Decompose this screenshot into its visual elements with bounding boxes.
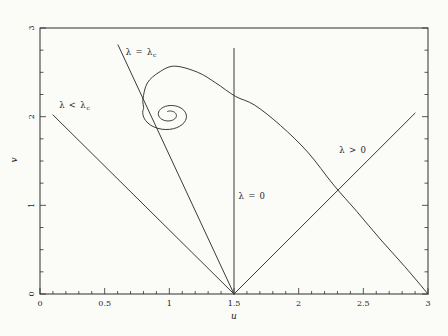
x-tick-label: 3	[425, 299, 430, 308]
lambda-critical-line	[118, 45, 234, 294]
x-tick-label: 2.5	[357, 299, 370, 308]
lambda-lt-critical-line	[53, 115, 234, 294]
lambda-gt-zero-line	[234, 113, 415, 294]
x-tick-label: 0	[37, 299, 42, 308]
y-tick-label: 2	[27, 114, 36, 119]
curve-label-lambda-critical-line: λ = λc	[126, 47, 157, 58]
spiral-trajectory	[143, 66, 428, 294]
x-tick-label: 1	[167, 299, 172, 308]
x-axis-label: u	[231, 312, 237, 321]
curve-label-lambda-gt-zero-line: λ > 0	[339, 145, 366, 155]
curve-label-lambda-zero-vertical-line: λ = 0	[238, 191, 265, 201]
y-tick-label: 0	[27, 291, 36, 296]
curve-label-lambda-lt-critical-line: λ < λc	[59, 100, 90, 111]
x-tick-label: 2	[296, 299, 301, 308]
x-tick-label: 0.5	[98, 299, 111, 308]
plot-svg: 00.511.522.530123λ < λcλ = λcλ = 0λ > 0	[0, 0, 448, 336]
y-axis-label: v	[10, 157, 19, 162]
y-tick-label: 3	[27, 25, 36, 30]
phase-portrait-figure: 00.511.522.530123λ < λcλ = λcλ = 0λ > 0 …	[0, 0, 448, 336]
x-tick-label: 1.5	[228, 299, 241, 308]
y-tick-label: 1	[27, 203, 36, 208]
